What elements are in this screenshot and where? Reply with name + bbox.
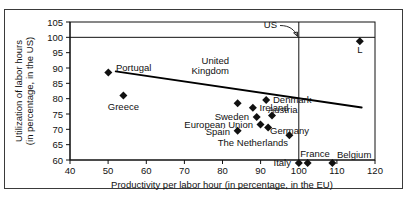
point-labels: Portugal Greece United Kingdom Denmark I… (108, 44, 372, 168)
marker-portugal (104, 69, 112, 77)
y-tick-label: 75 (52, 109, 63, 120)
point-label-belgium: Belgium (337, 149, 371, 160)
x-tick-label: 80 (217, 165, 228, 176)
marker-ireland (249, 104, 257, 112)
point-label-spain: Spain (206, 126, 230, 137)
x-tick-labels: 40 50 60 70 80 90 100 110 120 (65, 165, 383, 176)
y-axis-title-line2: (in percentage, in the US) (24, 37, 35, 145)
marker-sweden (253, 113, 261, 121)
y-tick-label: 80 (52, 93, 63, 104)
figure-container: 105 100 95 90 85 80 75 70 65 60 (0, 0, 408, 197)
scatter-chart: 105 100 95 90 85 80 75 70 65 60 (0, 0, 408, 197)
point-label-united-kingdom-line2: Kingdom (192, 65, 230, 76)
point-label-germany: Germany (270, 125, 309, 136)
y-tick-label: 85 (52, 78, 63, 89)
y-axis-title-line1: Utilization of labor hours (13, 40, 24, 142)
y-tick-label: 100 (47, 32, 63, 43)
x-tick-label: 50 (103, 165, 114, 176)
point-label-italy: Italy (274, 157, 292, 168)
marker-united-kingdom (234, 99, 242, 107)
y-tick-label: 95 (52, 47, 63, 58)
x-tick-label: 60 (141, 165, 152, 176)
y-tick-label: 70 (52, 124, 63, 135)
y-tick-label: 105 (47, 17, 63, 28)
x-tick-label: 70 (179, 165, 190, 176)
point-label-netherlands: The Netherlands (218, 137, 288, 148)
point-label-luxembourg: L (357, 44, 362, 55)
us-annotation-label: US (264, 19, 277, 30)
y-tick-label: 90 (52, 63, 63, 74)
marker-greece (119, 92, 127, 100)
y-axis: 105 100 95 90 85 80 75 70 65 60 (47, 17, 70, 166)
x-axis-title: Productivity per labor hour (in percenta… (111, 179, 333, 190)
x-tick-label: 90 (255, 165, 266, 176)
point-label-austria: Austria (268, 104, 298, 115)
y-tick-marks (66, 22, 70, 160)
y-tick-label: 60 (52, 155, 63, 166)
marker-european-union (257, 121, 265, 129)
x-tick-label: 120 (367, 165, 383, 176)
y-tick-labels: 105 100 95 90 85 80 75 70 65 60 (47, 17, 63, 166)
x-tick-label: 110 (329, 165, 344, 176)
y-tick-label: 65 (52, 139, 63, 150)
point-label-greece: Greece (108, 101, 139, 112)
point-label-france: France (300, 148, 330, 159)
x-tick-label: 40 (65, 165, 76, 176)
point-label-portugal: Portugal (116, 62, 151, 73)
